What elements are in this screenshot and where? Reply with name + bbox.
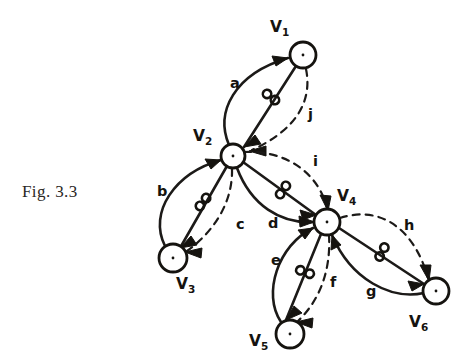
node-v6[interactable] [423,278,449,304]
figure-container: Fig. 3.3 [0,0,471,360]
knot-v1-v2 [261,88,281,106]
edge-a-arrowhead [272,56,288,66]
edge-label-a: a [230,75,240,91]
edge-labels-layer: a b c d e f g h i j [157,75,414,299]
knot-v4-v5 [295,265,315,279]
node-label-v3: V3 [176,275,195,295]
edge-label-j: j [307,106,313,122]
edge-label-c: c [236,216,245,232]
knot-marks-layer [194,88,390,279]
graph-diagram-svg: Fig. 3.3 [0,0,471,360]
node-label-v4: V4 [337,187,356,207]
node-label-v2: V2 [193,127,212,147]
edge-label-e: e [271,252,281,268]
node-label-v5: V5 [249,332,268,352]
node-v2[interactable] [221,144,245,168]
edge-v4-v6-path [339,228,424,284]
knot-v2-v3 [194,192,212,212]
edge-v2-v4-path [243,162,316,215]
edge-v1-v2-path [244,66,296,147]
figure-caption: Fig. 3.3 [22,182,78,201]
edge-label-d: d [268,215,278,231]
edge-j-path [252,69,307,150]
node-label-v6: V6 [409,313,428,333]
edge-label-b: b [157,183,167,199]
edge-label-h: h [404,217,414,233]
edge-label-g: g [366,283,376,299]
node-v5[interactable] [276,320,304,348]
edge-c-path [187,169,232,251]
edge-b-path [160,160,221,246]
node-v3[interactable] [159,244,187,272]
edges-layer [160,56,431,328]
edge-label-i: i [313,153,318,169]
node-v4[interactable] [314,209,340,235]
node-label-v1: V1 [270,18,289,38]
edge-label-f: f [330,274,337,290]
node-v1[interactable] [290,42,316,68]
